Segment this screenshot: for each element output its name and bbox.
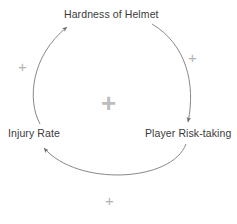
- polarity-injury-to-helmet: +: [18, 59, 27, 74]
- polarity-risk-to-injury: +: [105, 193, 114, 208]
- node-hardness-of-helmet: Hardness of Helmet: [64, 8, 159, 20]
- node-injury-rate: Injury Rate: [8, 127, 60, 139]
- loop-arrows-svg: [0, 0, 237, 224]
- polarity-helmet-to-risk: +: [188, 50, 197, 65]
- link-injury-to-helmet-arrow: [33, 27, 67, 124]
- causal-loop-diagram: Hardness of Helmet Injury Rate Player Ri…: [0, 0, 237, 224]
- link-helmet-to-risk-arrow: [152, 24, 191, 122]
- loop-polarity-reinforcing: +: [101, 90, 116, 116]
- node-player-risk-taking: Player Risk-taking: [145, 127, 231, 139]
- link-risk-to-injury-arrow: [44, 144, 186, 175]
